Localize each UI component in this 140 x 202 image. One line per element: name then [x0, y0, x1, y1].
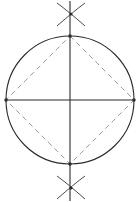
construction-diagram — [0, 0, 140, 202]
bottom-intersection-point — [69, 186, 72, 189]
vertex-bottom-point — [68, 162, 71, 165]
vertex-right-point — [132, 98, 135, 101]
vertex-left-point — [4, 98, 7, 101]
geometry-figure — [0, 0, 140, 202]
top-intersection-point — [69, 12, 72, 15]
vertex-top-point — [68, 34, 71, 37]
